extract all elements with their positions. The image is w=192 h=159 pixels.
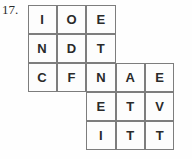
- grid-cell-r5c5: T: [145, 121, 174, 150]
- table-row: E T V: [28, 93, 175, 122]
- grid-cell-r3c1: C: [28, 63, 57, 92]
- grid-cell-r5c3: I: [86, 121, 115, 150]
- table-row: C F N A E: [28, 63, 175, 92]
- grid-cell-r3c3: N: [86, 63, 115, 92]
- table-row: I O E: [28, 5, 175, 34]
- puzzle-figure: 17. I O E N D T C F N A E E T V: [0, 0, 192, 159]
- grid-cell-r3c4: A: [116, 63, 145, 92]
- grid-cell-r4c3: E: [86, 92, 115, 121]
- grid-cell-r2c1: N: [28, 34, 57, 63]
- table-row: N D T: [28, 34, 175, 63]
- grid-cell-r2c3: T: [86, 34, 115, 63]
- grid-cell-r3c2: F: [57, 63, 86, 92]
- table-row: I T T: [28, 122, 175, 151]
- grid-cell-r1c2: O: [57, 5, 86, 34]
- grid-cell-r5c4: T: [116, 121, 145, 150]
- question-number-label: 17.: [2, 2, 18, 17]
- grid-cell-r2c2: D: [57, 34, 86, 63]
- grid-cell-r4c4: T: [116, 92, 145, 121]
- grid-cell-r4c5: V: [145, 92, 174, 121]
- letter-grid: I O E N D T C F N A E E T V I T T: [28, 5, 175, 151]
- grid-cell-r1c3: E: [86, 5, 115, 34]
- grid-cell-r1c1: I: [28, 5, 57, 34]
- grid-cell-r3c5: E: [145, 63, 174, 92]
